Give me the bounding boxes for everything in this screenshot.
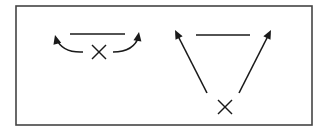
- left-diagonal-arrow-icon: [171, 28, 207, 93]
- diagram-frame: [16, 6, 312, 125]
- cross-icon: [218, 100, 232, 114]
- diagram-canvas: [0, 0, 327, 131]
- right-diagonal-arrow-icon: [239, 28, 275, 93]
- left-curved-arrow-icon: [51, 34, 83, 52]
- diagram-panels: [51, 28, 274, 114]
- cross-icon: [92, 45, 106, 59]
- right-panel: [171, 28, 274, 114]
- left-panel: [51, 31, 143, 59]
- diagram-svg: [0, 0, 327, 131]
